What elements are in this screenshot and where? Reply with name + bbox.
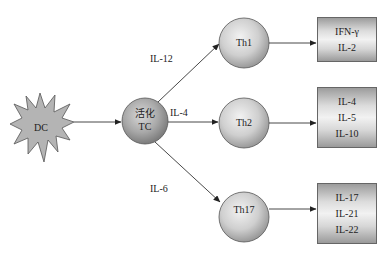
edge-label-il12: IL-12 — [150, 53, 173, 65]
th1-output-ifng: IFN-γ — [335, 24, 359, 40]
th2-output-box: IL-4 IL-5 IL-10 — [317, 87, 377, 148]
th1-output-box: IFN-γ IL-2 — [317, 17, 377, 62]
th2-output-il5: IL-5 — [338, 110, 356, 126]
th2-output-il10: IL-10 — [336, 126, 359, 142]
th17-output-il17: IL-17 — [336, 190, 359, 206]
dc-label: DC — [26, 122, 56, 134]
th17-label: Th17 — [224, 204, 264, 216]
th17-node — [219, 192, 269, 242]
tc-label-line2: TC — [125, 121, 165, 133]
th17-output-il21: IL-21 — [336, 206, 359, 222]
th17-output-il22: IL-22 — [336, 222, 359, 238]
th2-output-il4: IL-4 — [338, 94, 356, 110]
th17-output-box: IL-17 IL-21 IL-22 — [317, 183, 377, 244]
tc-label-line1: 活化 — [125, 108, 165, 120]
th1-label: Th1 — [224, 37, 264, 49]
edge-label-il6: IL-6 — [150, 183, 168, 195]
edge-label-il4: IL-4 — [170, 107, 188, 119]
th2-label: Th2 — [224, 117, 264, 129]
th1-output-il2: IL-2 — [338, 40, 356, 56]
